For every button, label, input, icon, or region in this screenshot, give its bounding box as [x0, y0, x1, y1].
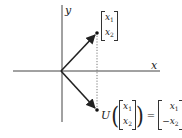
original-vector-label: x1 x2 — [101, 11, 118, 41]
column-vector: x1 x2 — [101, 11, 118, 41]
equals-sign: = — [147, 110, 155, 121]
right-paren: ) — [136, 103, 144, 128]
left-bracket — [158, 100, 162, 130]
input-column-vector: x1 x2 — [119, 100, 136, 130]
x-axis-label: x — [151, 60, 157, 71]
reflection-equation: U ( x1 x2 ) = x1 −x2 — [101, 100, 182, 130]
reflection-diagram: y x x1 x2 U ( x1 x2 ) = — [0, 0, 182, 138]
left-bracket — [101, 11, 105, 41]
right-bracket — [179, 100, 182, 130]
original-point-dot — [95, 31, 99, 35]
reflected-vector-arrow — [61, 71, 95, 108]
output-column-vector: x1 −x2 — [158, 100, 182, 130]
left-paren: ( — [111, 103, 119, 128]
y-axis-label: y — [65, 5, 71, 16]
reflected-point-dot — [95, 108, 99, 112]
original-vector-arrow — [61, 35, 95, 71]
right-bracket — [114, 11, 118, 41]
operator-u: U — [101, 109, 110, 122]
left-bracket — [119, 100, 123, 130]
